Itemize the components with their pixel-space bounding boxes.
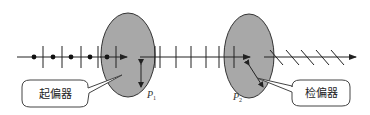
P1-subscript: 1 [153, 95, 156, 101]
dot-icon [51, 55, 56, 60]
dot-icon [88, 55, 93, 60]
polarizer-ellipse [101, 13, 155, 97]
analyzer-ellipse [224, 14, 274, 98]
dot-icon [69, 55, 74, 60]
callout-analyzer: 检偏器 [257, 78, 350, 106]
analyzer-P2: P 2 [224, 14, 274, 103]
diagram-svg: P 1 P 2 [0, 0, 370, 115]
P2-subscript: 2 [239, 97, 242, 103]
polarization-diagram: P 1 P 2 [0, 0, 370, 115]
oblique-polarized-segment [264, 50, 356, 65]
analyzer-label: 检偏器 [305, 86, 338, 100]
polarizer-label: 起偏器 [39, 87, 72, 101]
dot-icon [32, 55, 37, 60]
